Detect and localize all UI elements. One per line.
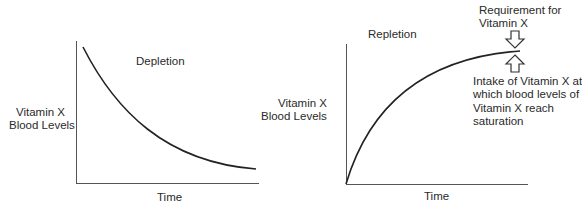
- right-ylabel-line1: Vitamin X: [278, 97, 327, 110]
- left-xlabel: Time: [157, 191, 182, 204]
- repletion-title: Repletion: [368, 28, 417, 41]
- up-arrow-icon: [506, 55, 524, 72]
- requirement-label-line1: Requirement for: [479, 4, 561, 17]
- right-ylabel-line2: Blood Levels: [261, 110, 327, 123]
- down-arrow-icon: [506, 31, 524, 48]
- left-ylabel-line2: Blood Levels: [9, 119, 75, 132]
- intake-label-line1: Intake of Vitamin X at: [473, 75, 582, 88]
- intake-label-line4: saturation: [473, 115, 524, 128]
- depletion-title: Depletion: [136, 55, 185, 68]
- requirement-label-line2: Vitamin X: [479, 17, 528, 30]
- intake-label-line2: which blood levels of: [473, 88, 579, 101]
- left-ylabel-line1: Vitamin X: [16, 106, 65, 119]
- intake-label-line3: Vitamin X reach: [473, 102, 554, 115]
- right-xlabel: Time: [424, 190, 449, 203]
